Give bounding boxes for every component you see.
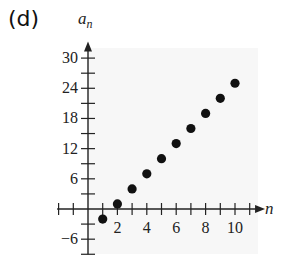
- data-point: [186, 124, 195, 133]
- data-point: [201, 109, 210, 118]
- y-tick-label: 6: [70, 170, 78, 187]
- x-tick-label: 4: [143, 219, 151, 236]
- data-point: [216, 94, 225, 103]
- y-tick-label: 18: [62, 109, 78, 126]
- data-point: [172, 139, 181, 148]
- x-tick-label: 10: [227, 219, 243, 236]
- data-point: [98, 214, 107, 223]
- scatter-chart: 246810302418126−6 an n: [0, 0, 289, 264]
- data-point: [157, 154, 166, 163]
- data-point: [113, 199, 122, 208]
- data-point: [142, 169, 151, 178]
- x-axis-arrow-icon: [255, 205, 265, 213]
- y-tick-label: −6: [61, 230, 78, 247]
- data-point: [128, 184, 137, 193]
- y-axis-label: an: [78, 9, 93, 31]
- y-tick-label: 24: [62, 79, 78, 96]
- data-point: [230, 79, 239, 88]
- x-tick-label: 2: [113, 219, 121, 236]
- y-axis-arrow-icon: [84, 42, 92, 52]
- x-tick-label: 8: [202, 219, 210, 236]
- x-axis-label: n: [265, 199, 274, 218]
- y-tick-label: 12: [62, 140, 78, 157]
- x-tick-label: 6: [172, 219, 180, 236]
- y-tick-label: 30: [62, 49, 78, 66]
